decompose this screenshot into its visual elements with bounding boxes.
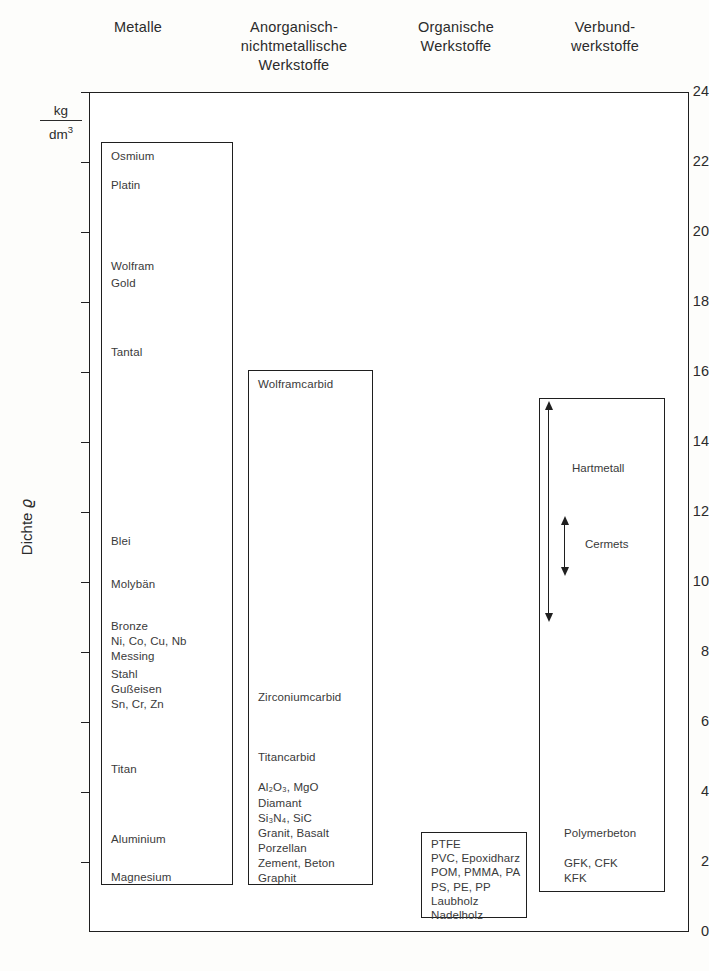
material-entry: Titancarbid [258,751,316,764]
material-entry: Wolframcarbid [258,378,333,391]
material-entry: Al₂O₃, MgO [258,781,319,794]
rho-symbol: ϱ [18,499,36,509]
y-axis-unit-numerator: kg [40,103,82,120]
range-label-cermets: Cermets [585,538,628,550]
material-entry: POM, PMMA, PA [431,866,520,879]
material-entry: Tantal [111,346,142,359]
column-header-verbund: Verbund- werkstoffe [530,18,680,56]
material-entry: Molybän [111,578,155,591]
material-entry: Si₃N₄, SiC [258,812,312,825]
material-box-organische: PTFE PVC, Epoxidharz POM, PMMA, PA PS, P… [421,832,527,918]
arrow-head-down-icon [545,613,553,622]
y-axis-unit: kg dm3 [40,103,82,143]
material-entry: Bronze [111,620,148,633]
range-label-hartmetall: Hartmetall [572,462,624,474]
material-entry: Messing [111,650,155,663]
material-entry: KFK [564,872,587,885]
material-entry: Blei [111,535,131,548]
material-entry: Sn, Cr, Zn [111,698,164,711]
material-box-verbund: Hartmetall Cermets Polymerbeton GFK, CFK… [539,398,665,892]
arrow-head-up-icon [545,401,553,410]
arrow-head-up-icon [561,516,569,525]
material-entry: Platin [111,179,140,192]
material-entry: Titan [111,763,137,776]
range-arrow-cermets [564,524,565,568]
material-entry: PS, PE, PP [431,881,491,894]
material-entry: Ni, Co, Cu, Nb [111,635,187,648]
material-box-anorganisch: Wolframcarbid Zirconiumcarbid Titancarbi… [248,370,373,885]
material-entry: Graphit [258,872,296,885]
material-entry: Polymerbeton [564,827,636,840]
material-entry: PVC, Epoxidharz [431,852,520,865]
material-box-metalle: Osmium Platin Wolfram Gold Tantal Blei M… [101,142,233,885]
material-entry: Zirconiumcarbid [258,691,341,704]
material-entry: Nadelholz [431,909,483,922]
arrow-head-down-icon [561,567,569,576]
material-entry: Osmium [111,150,154,163]
material-entry: Porzellan [258,842,307,855]
density-chart-figure: Metalle Anorganisch- nichtmetallische We… [0,0,709,971]
material-entry: Diamant [258,797,302,810]
material-entry: GFK, CFK [564,857,618,870]
material-entry: Magnesium [111,871,171,884]
material-entry: PTFE [431,838,461,851]
y-axis-unit-denominator: dm3 [40,120,82,143]
material-entry: Gold [111,277,136,290]
y-axis-title: Dichte ϱ [18,467,36,587]
material-entry: Wolfram [111,260,154,273]
material-entry: Aluminium [111,833,166,846]
column-header-metalle: Metalle [62,18,214,37]
material-entry: Gußeisen [111,683,162,696]
material-entry: Zement, Beton [258,857,335,870]
material-entry: Laubholz [431,895,478,908]
range-arrow-hartmetall [548,409,549,614]
material-entry: Granit, Basalt [258,827,329,840]
column-header-anorganisch: Anorganisch- nichtmetallische Werkstoffe [214,18,374,75]
column-header-organische: Organische Werkstoffe [386,18,526,56]
material-entry: Stahl [111,668,138,681]
